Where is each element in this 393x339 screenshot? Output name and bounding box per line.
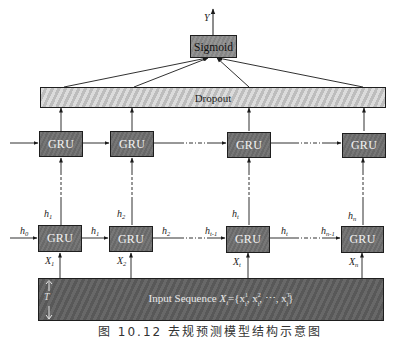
hn-minus-1-label: hn-1 [321,226,335,239]
lower-gru-cell-n: GRU [341,226,384,253]
upper-gru-cell-n: GRU [342,133,386,158]
sigmoid-layer: Sigmoid [190,35,237,58]
gru-label: GRU [235,232,261,247]
lower-gru-cell-2: GRU [109,226,153,252]
xt-label: Xt [233,257,241,270]
upper-gru-cell-1: GRU [39,131,83,157]
x1-label: X1 [45,256,54,269]
output-y-label: Y [204,13,210,23]
h0-label: h0 [20,226,28,239]
h1-vertical-label: h1 [44,209,52,222]
h2-vertical-label: h2 [117,209,125,222]
ht-minus-1-label: ht-1 [205,226,217,239]
dropout-layer: Dropout [40,87,386,108]
gru-label: GRU [351,138,377,153]
dropout-label: Dropout [195,92,232,104]
gru-label: GRU [349,232,375,247]
lower-gru-cell-t: GRU [226,226,270,253]
upper-gru-cell-2: GRU [110,131,154,157]
gru-label: GRU [47,231,73,246]
input-sequence-text: Input Sequence Xi={x1i, x2i, ⋯, xTi} [149,292,294,306]
upper-gru-cell-t: GRU [227,132,271,158]
ht-vertical-label: ht [232,209,239,222]
input-sequence-block: Input Sequence Xi={x1i, x2i, ⋯, xTi} [38,278,384,321]
lower-gru-cell-1: GRU [38,225,82,252]
gru-label: GRU [236,138,262,153]
x2-label: X2 [117,256,126,269]
xn-label: Xn [349,257,358,270]
h2-horizontal-label: h2 [162,226,170,239]
ht-horizontal-label: ht [281,226,288,239]
h1-horizontal-label: h1 [91,226,99,239]
gru-label: GRU [119,137,145,152]
figure-caption: 图 10.12 去规预测模型结构示意图 [98,322,322,339]
time-axis-label: T [44,291,50,302]
sigmoid-label: Sigmoid [194,41,233,53]
gru-label: GRU [118,232,144,247]
gru-label: GRU [48,137,74,152]
hn-vertical-label: hn [348,211,356,224]
